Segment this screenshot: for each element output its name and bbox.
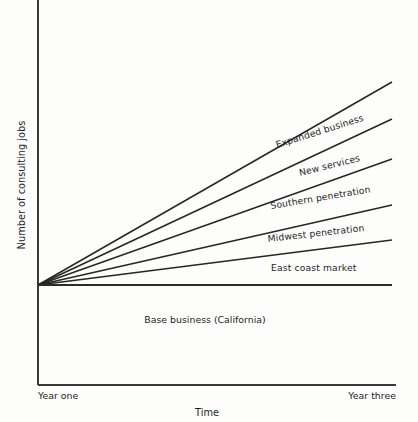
annotation-base-business: Base business (California)	[144, 314, 265, 325]
x-tick-label-year-three: Year three	[347, 390, 396, 401]
series-line-new-services	[38, 119, 392, 285]
x-axis-title: Time	[194, 407, 219, 418]
series-line-expanded-business	[38, 82, 392, 285]
series-label-expanded-business: Expanded business	[274, 112, 364, 150]
series-label-east-coast-market: East coast market	[271, 262, 357, 273]
series-label-southern-penetration: Southern penetration	[270, 183, 372, 211]
x-tick-label-year-one: Year one	[37, 390, 79, 401]
chart-canvas: Expanded business New services Southern …	[0, 0, 418, 422]
series-line-midwest-penetration	[38, 205, 392, 285]
y-axis-title: Number of consulting jobs	[16, 121, 27, 250]
series-label-midwest-penetration: Midwest penetration	[267, 222, 365, 244]
consulting-growth-chart: Expanded business New services Southern …	[0, 0, 418, 422]
